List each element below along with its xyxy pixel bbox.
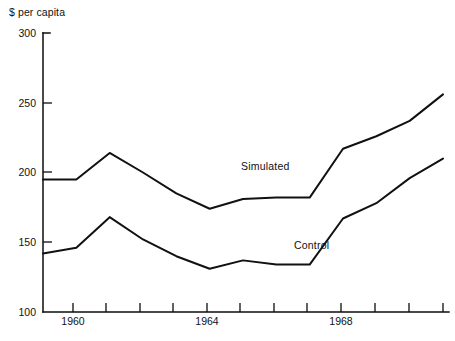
x-tick-label-1968: 1968 (321, 315, 361, 327)
series-annotation-simulated: Simulated (241, 160, 290, 172)
y-axis-ticks (43, 103, 52, 242)
y-tick-label-150: 150 (8, 236, 36, 248)
chart-container: $ per capita 300 250 (0, 0, 455, 341)
series-annotation-control: Control (294, 239, 329, 251)
chart-plot-area (0, 0, 455, 341)
y-tick-label-300: 300 (8, 27, 36, 39)
x-tick-label-1964: 1964 (187, 315, 227, 327)
series-line-simulated (43, 94, 443, 208)
y-tick-label-100: 100 (8, 306, 36, 318)
y-tick-label-250: 250 (8, 97, 36, 109)
x-axis-ticks (73, 303, 443, 312)
chart-axes (43, 33, 449, 312)
y-tick-label-200: 200 (8, 166, 36, 178)
series-line-control (43, 159, 443, 269)
x-tick-label-1960: 1960 (53, 315, 93, 327)
